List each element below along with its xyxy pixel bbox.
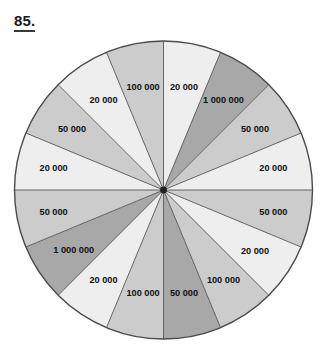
sector-label: 100 000 [207,275,240,285]
sector-label: 1 000 000 [53,245,94,255]
spinner-wheel[interactable]: 20 0001 000 00050 00020 00050 00020 0001… [0,0,325,362]
sector-label: 100 000 [126,288,159,298]
sector-label: 50 000 [40,207,68,217]
sector-label: 20 000 [170,82,198,92]
wheel-hub [160,187,167,194]
sector-label: 20 000 [241,246,269,256]
spinner-wheel-figure: 20 0001 000 00050 00020 00050 00020 0001… [0,0,325,362]
sector-label: 100 000 [126,82,159,92]
sector-label: 50 000 [259,207,287,217]
sector-label: 20 000 [89,95,117,105]
sector-label: 50 000 [170,288,198,298]
sector-label: 1 000 000 [203,95,244,105]
sector-label: 50 000 [241,124,269,134]
sector-label: 20 000 [89,275,117,285]
sector-label: 20 000 [40,163,68,173]
sector-label: 20 000 [259,163,287,173]
worksheet-page: 85. 20 0001 000 00050 00020 00050 00020 … [0,0,325,362]
sector-label: 50 000 [58,124,86,134]
